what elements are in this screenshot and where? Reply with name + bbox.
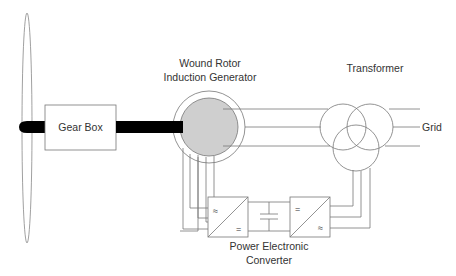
gear-box-label: Gear Box (45, 121, 116, 134)
grid-side-dc-symbol: = (295, 205, 300, 214)
dc-link-capacitor (248, 202, 290, 231)
rotor-side-ac-symbol: ≈ (213, 207, 218, 216)
generator-label-line1: Wound Rotor (150, 57, 270, 70)
rotor-shaft (140, 121, 183, 133)
generator-label-line2: Induction Generator (150, 71, 270, 84)
diagram-canvas (0, 0, 456, 276)
transformer-label: Transformer (320, 62, 430, 75)
grid-side-ac-symbol: ≈ (318, 224, 323, 233)
grid-label: Grid (422, 121, 450, 134)
generator-rotor (180, 98, 238, 156)
rotor-side-dc-symbol: = (236, 225, 241, 234)
transformer (320, 104, 393, 171)
grid-connection (385, 109, 420, 146)
converter-label-line1: Power Electronic (209, 240, 329, 253)
turbine-hub (19, 121, 45, 133)
converter-to-transformer (330, 168, 370, 228)
converter-label-line2: Converter (209, 254, 329, 267)
